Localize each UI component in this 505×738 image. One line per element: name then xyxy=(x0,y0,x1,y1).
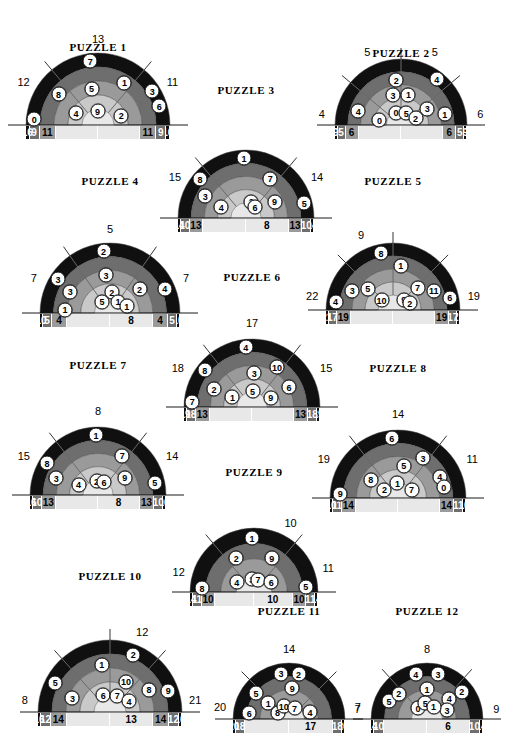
puzzle-token[interactable]: 3 xyxy=(49,471,64,486)
puzzle-token[interactable]: 3 xyxy=(385,88,400,103)
puzzle-token[interactable]: 1 xyxy=(94,657,109,672)
puzzle-token[interactable]: 3 xyxy=(99,268,114,283)
puzzle-token[interactable]: 9 xyxy=(117,470,132,485)
puzzle-token[interactable]: 4 xyxy=(122,694,137,709)
puzzle-token[interactable]: 1 xyxy=(426,699,441,714)
puzzle-token[interactable]: 5 xyxy=(48,675,63,690)
puzzle-token[interactable]: 9 xyxy=(267,194,282,209)
puzzle-token[interactable]: 3 xyxy=(431,667,446,682)
puzzle-token[interactable]: 2 xyxy=(132,282,147,297)
puzzle-token[interactable]: 5 xyxy=(147,475,162,490)
puzzle-token[interactable]: 6 xyxy=(96,688,111,703)
puzzle-token[interactable]: 6 xyxy=(264,575,279,590)
puzzle-token[interactable]: 4 xyxy=(238,340,253,355)
puzzle-token[interactable]: 4 xyxy=(68,106,83,121)
puzzle-token[interactable]: 5 xyxy=(297,196,312,211)
puzzle-token[interactable]: 8 xyxy=(197,363,212,378)
puzzle-token[interactable]: 2 xyxy=(391,686,406,701)
puzzle-token[interactable]: 1 xyxy=(225,390,240,405)
puzzle-token[interactable]: 1 xyxy=(437,107,452,122)
puzzle-token[interactable]: 3 xyxy=(415,451,430,466)
puzzle-token[interactable]: 8 xyxy=(373,246,388,261)
base-cell: 14 xyxy=(153,713,169,726)
puzzle-token[interactable]: 4 xyxy=(408,667,423,682)
sector-tick-0 xyxy=(294,345,301,354)
puzzle-token[interactable]: 3 xyxy=(63,284,78,299)
puzzle-token[interactable]: 2 xyxy=(389,73,404,88)
puzzle-token[interactable]: 2 xyxy=(206,382,221,397)
puzzle-token[interactable]: 1 xyxy=(245,531,260,546)
puzzle-token[interactable]: 9 xyxy=(90,104,105,119)
puzzle-token[interactable]: 4 xyxy=(302,705,317,720)
puzzle-token[interactable]: 0 xyxy=(27,112,42,127)
puzzle-token[interactable]: 4 xyxy=(429,72,444,87)
puzzle-token[interactable]: 5 xyxy=(360,281,375,296)
puzzle-token[interactable]: 6 xyxy=(242,706,257,721)
puzzle-token[interactable]: 2 xyxy=(96,244,111,259)
puzzle-token[interactable]: 4 xyxy=(229,575,244,590)
puzzle-token[interactable]: 1 xyxy=(420,682,435,697)
puzzle-token[interactable]: 1 xyxy=(88,428,103,443)
puzzle-token[interactable]: 2 xyxy=(454,684,469,699)
puzzle-token[interactable]: 9 xyxy=(333,486,348,501)
puzzle-token[interactable]: 2 xyxy=(229,551,244,566)
puzzle-token[interactable]: 9 xyxy=(264,551,279,566)
puzzle-token[interactable]: 5 xyxy=(94,294,109,309)
puzzle-token[interactable]: 1 xyxy=(390,476,405,491)
puzzle-token[interactable]: 1 xyxy=(236,151,251,166)
puzzle-token[interactable]: 8 xyxy=(363,472,378,487)
puzzle-token[interactable]: 1 xyxy=(117,75,132,90)
puzzle-token[interactable]: 8 xyxy=(141,682,156,697)
puzzle-token[interactable]: 2 xyxy=(408,111,423,126)
puzzle-token[interactable]: 3 xyxy=(274,666,289,681)
puzzle-token[interactable]: 5 xyxy=(298,579,313,594)
puzzle-token[interactable]: 1 xyxy=(393,258,408,273)
puzzle-token[interactable]: 6 xyxy=(247,200,262,215)
puzzle-token[interactable]: 7 xyxy=(83,54,98,69)
outer-label: 5 xyxy=(364,46,370,58)
puzzle-token[interactable]: 4 xyxy=(157,281,172,296)
puzzle-token[interactable]: 9 xyxy=(161,683,176,698)
puzzle-token[interactable]: 7 xyxy=(404,482,419,497)
puzzle-token[interactable]: 2 xyxy=(126,647,141,662)
puzzle-token[interactable]: 4 xyxy=(71,477,86,492)
puzzle-token[interactable]: 3 xyxy=(51,272,66,287)
puzzle-token[interactable]: 6 xyxy=(97,475,112,490)
puzzle-token[interactable]: 6 xyxy=(384,431,399,446)
puzzle-token[interactable]: 8 xyxy=(195,581,210,596)
puzzle-token[interactable]: 4 xyxy=(351,104,366,119)
puzzle-token[interactable]: 3 xyxy=(198,189,213,204)
puzzle-token[interactable]: 3 xyxy=(65,691,80,706)
puzzle-token[interactable]: 7 xyxy=(263,171,278,186)
puzzle-token[interactable]: 1 xyxy=(119,299,134,314)
puzzle-token[interactable]: 3 xyxy=(345,283,360,298)
puzzle-token[interactable]: 8 xyxy=(40,456,55,471)
puzzle-token[interactable]: 0 xyxy=(436,480,451,495)
puzzle-token[interactable]: 1 xyxy=(401,87,416,102)
puzzle-token[interactable]: 2 xyxy=(114,108,129,123)
puzzle-token[interactable]: 8 xyxy=(51,87,66,102)
puzzle-token[interactable]: 6 xyxy=(282,380,297,395)
puzzle-token[interactable]: 4 xyxy=(214,200,229,215)
puzzle-token[interactable]: 4 xyxy=(328,294,343,309)
puzzle-token[interactable]: 1 xyxy=(58,302,73,317)
puzzle-token[interactable]: 9 xyxy=(285,681,300,696)
puzzle-token[interactable]: 10 xyxy=(118,674,133,689)
puzzle-token[interactable]: 7 xyxy=(115,448,130,463)
puzzle-token[interactable]: 11 xyxy=(426,283,441,298)
puzzle-token[interactable]: 10 xyxy=(269,360,284,375)
puzzle-token[interactable]: 3 xyxy=(247,366,262,381)
puzzle-token[interactable]: 2 xyxy=(402,296,417,311)
puzzle-token[interactable]: 6 xyxy=(152,99,167,114)
puzzle-token[interactable]: 2 xyxy=(291,667,306,682)
puzzle-token[interactable]: 7 xyxy=(287,701,302,716)
puzzle-token[interactable]: 7 xyxy=(410,280,425,295)
puzzle-token[interactable]: 3 xyxy=(440,703,455,718)
puzzle-token[interactable]: 5 xyxy=(245,384,260,399)
puzzle-token[interactable]: 10 xyxy=(374,293,389,308)
puzzle-token[interactable]: 9 xyxy=(263,390,278,405)
puzzle-token[interactable]: 5 xyxy=(396,458,411,473)
puzzle-token[interactable]: 6 xyxy=(442,290,457,305)
puzzle-token[interactable]: 5 xyxy=(84,81,99,96)
puzzle-token[interactable]: 0 xyxy=(372,113,387,128)
